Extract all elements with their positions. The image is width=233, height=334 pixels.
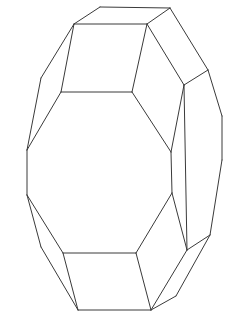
crystal-edge — [100, 7, 170, 8]
crystal-diagram — [0, 0, 233, 334]
crystal-edge — [184, 70, 208, 85]
crystal-edge — [41, 247, 78, 310]
crystal-edge — [136, 253, 151, 310]
crystal-edge — [63, 253, 78, 310]
crystal-edge — [172, 193, 187, 250]
crystal-edge — [176, 235, 210, 296]
crystal-edge — [27, 195, 63, 253]
crystal-edge — [27, 92, 61, 150]
crystal-edge — [208, 70, 222, 116]
crystal-edge — [147, 8, 170, 24]
crystal-edge — [132, 24, 147, 92]
crystal-edge — [27, 195, 41, 247]
crystal-edge — [187, 235, 210, 250]
crystal-edge — [151, 250, 187, 310]
crystal-edge — [147, 24, 184, 85]
crystal-edge — [171, 85, 184, 152]
crystal-edge — [74, 7, 100, 24]
crystal-edge — [27, 78, 41, 150]
crystal-edge — [184, 85, 187, 250]
crystal-edge — [132, 92, 171, 152]
crystal-edge — [136, 193, 172, 253]
crystal-edge — [171, 152, 172, 193]
crystal-edge — [170, 8, 208, 70]
crystal-edge — [210, 160, 222, 235]
